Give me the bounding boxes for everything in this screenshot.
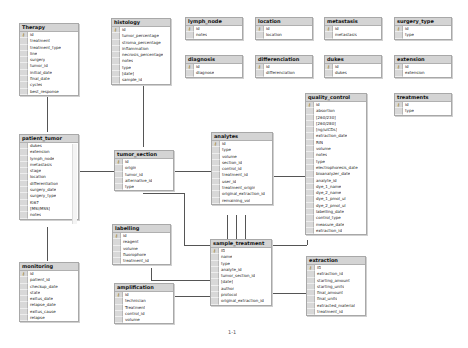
figure-caption: 1-1: [228, 329, 236, 335]
connector-analytes-sample-3: [245, 215, 246, 240]
connector-quality-down: [307, 240, 308, 245]
table-therapy[interactable]: Therapy ⚷id treatment treatment_type lin…: [19, 23, 79, 96]
table-title: labelling: [113, 225, 170, 233]
field: dukes: [333, 70, 347, 76]
table-tumor-section[interactable]: tumor_section ⚷id origin tumor_id altern…: [114, 150, 174, 191]
field: remaining_vol: [220, 198, 250, 204]
connector-analytes-sample-1: [227, 215, 228, 240]
table-treatments[interactable]: treatments ⚷id type: [394, 93, 452, 116]
table-metastasis[interactable]: metastasis ⚷id metastasis: [324, 17, 382, 40]
field: notes: [194, 32, 207, 38]
table-title: dukes: [325, 56, 381, 64]
field: extension: [403, 70, 425, 76]
field: relapse: [28, 315, 45, 321]
table-title: sample_treatment: [211, 240, 271, 248]
table-lymph-node[interactable]: lymph_node ⚷id notes: [185, 17, 243, 40]
table-title: metastasis: [325, 18, 381, 26]
table-title: lymph_node: [186, 18, 242, 26]
table-title: analytes: [212, 133, 272, 141]
field: treatment_id: [121, 258, 149, 264]
field: treatment_id: [315, 309, 343, 315]
connector-analytes-sample-2: [236, 215, 237, 240]
table-title: surgery_type: [395, 18, 451, 26]
table-title: tumor_section: [115, 151, 173, 159]
table-title: treatments: [395, 94, 451, 102]
field: location: [264, 32, 282, 38]
table-location[interactable]: location ⚷id location: [255, 17, 313, 40]
connector-therapy-patient: [47, 97, 48, 132]
field: differenciation: [264, 70, 295, 76]
table-dukes[interactable]: dukes ⚷id dukes: [324, 55, 382, 78]
table-title: amplification: [115, 284, 173, 292]
table-histology[interactable]: histology ⚷id tumor_percentage stroma_pe…: [111, 18, 171, 85]
table-monitoring[interactable]: monitoring ⚷id patient_id checkup_date s…: [19, 262, 79, 322]
field: diagnose: [194, 70, 214, 76]
connector-patient-monitoring: [47, 227, 48, 261]
table-title: monitoring: [20, 263, 78, 271]
field: notes: [28, 212, 41, 218]
connector-tumor-section-down: [184, 193, 185, 245]
scrollbar[interactable]: [72, 144, 77, 224]
field: type: [403, 108, 414, 114]
field: volume: [123, 317, 140, 323]
connector-labelling-sample: [151, 280, 210, 281]
connector-labelling-down: [151, 268, 152, 280]
connector-patient-tumor-section: [78, 171, 114, 172]
field: type: [403, 32, 414, 38]
field: metastasis: [333, 32, 357, 38]
connector-tumor-section-analytes: [173, 171, 211, 172]
field: type: [123, 184, 134, 190]
connector-amplification-sample: [175, 296, 210, 297]
connector-to-sample: [184, 245, 210, 246]
table-title: Therapy: [20, 24, 78, 32]
table-extension[interactable]: extension ⚷id extension: [394, 55, 452, 78]
table-extraction[interactable]: extraction ⚷ID extraction_id starting_am…: [306, 256, 366, 316]
table-title: histology: [112, 19, 170, 27]
table-title: extraction: [307, 257, 365, 265]
field: original_extraction_id: [219, 298, 264, 304]
connector-sample-extraction: [271, 293, 308, 294]
connector-tumor-section-sample: [143, 193, 184, 194]
connector-histology-tumor-section: [143, 85, 144, 147]
connector-sample-quality: [271, 245, 307, 246]
table-surgery-type[interactable]: surgery_type ⚷id type: [394, 17, 452, 40]
table-sample-treatment[interactable]: sample_treatment ⚷ID name type analyte_i…: [210, 239, 272, 306]
connector-analytes-quality: [272, 176, 307, 177]
table-title: differenciation: [256, 56, 312, 64]
field: extraction_id: [314, 228, 342, 234]
table-title: diagnosis: [186, 56, 242, 64]
table-title: location: [256, 18, 312, 26]
table-quality-control[interactable]: quality_control ⚷id absortion [260/230] …: [305, 93, 367, 235]
table-analytes[interactable]: analytes ⚷id type volume section_id cont…: [211, 132, 273, 205]
table-amplification[interactable]: amplification ⚷id technician Treatment c…: [114, 283, 174, 324]
table-title: quality_control: [306, 94, 366, 102]
field: best_response: [28, 89, 59, 95]
table-labelling[interactable]: labelling ⚷id reagent volume fluorophore…: [112, 224, 171, 265]
table-diagnosis[interactable]: diagnosis ⚷id diagnose: [185, 55, 243, 78]
field: sample_id: [120, 77, 142, 83]
table-differenciation[interactable]: differenciation ⚷id differenciation: [255, 55, 313, 78]
table-title: patient_tumor: [20, 135, 78, 143]
table-patient-tumor[interactable]: patient_tumor dukes extension lymph_node…: [19, 134, 79, 220]
table-title: extension: [395, 56, 451, 64]
